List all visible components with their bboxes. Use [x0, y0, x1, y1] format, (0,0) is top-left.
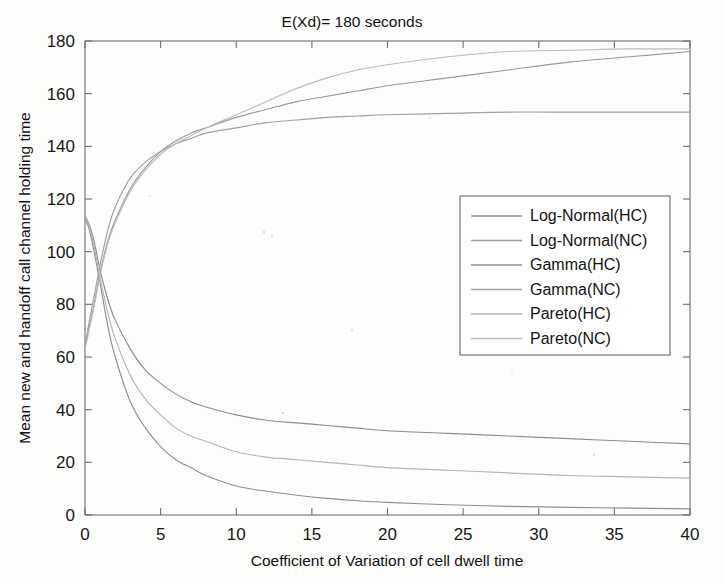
y-tick-label: 100: [47, 243, 75, 262]
x-tick-label: 15: [302, 525, 321, 544]
legend-label: Pareto(HC): [530, 305, 611, 322]
legend-label: Log-Normal(NC): [530, 232, 647, 249]
y-tick-label: 40: [56, 401, 75, 420]
legend-label: Log-Normal(HC): [530, 207, 647, 224]
y-tick-label: 60: [56, 348, 75, 367]
x-tick-label: 25: [454, 525, 473, 544]
y-tick-label: 20: [56, 453, 75, 472]
legend-label: Gamma(NC): [530, 281, 621, 298]
y-axis-label: Mean new and handoff call channel holdin…: [16, 112, 33, 443]
x-tick-label: 0: [80, 525, 89, 544]
y-tick-label: 120: [47, 190, 75, 209]
y-tick-label: 160: [47, 85, 75, 104]
legend-label: Gamma(HC): [530, 256, 621, 273]
x-tick-label: 10: [227, 525, 246, 544]
chart-figure: E(Xd)= 180 seconds 020406080100120140160…: [0, 0, 725, 585]
y-tick-label: 140: [47, 137, 75, 156]
x-tick-label: 35: [605, 525, 624, 544]
x-tick-label: 5: [156, 525, 165, 544]
y-tick-label: 180: [47, 32, 75, 51]
legend-label: Pareto(NC): [530, 330, 611, 347]
line-chart: E(Xd)= 180 seconds 020406080100120140160…: [0, 0, 725, 585]
y-tick-label: 0: [66, 506, 75, 525]
chart-title: E(Xd)= 180 seconds: [282, 13, 423, 30]
y-tick-label: 80: [56, 295, 75, 314]
x-tick-label: 30: [529, 525, 548, 544]
x-tick-label: 20: [378, 525, 397, 544]
x-axis-label: Coefficient of Variation of cell dwell t…: [251, 552, 524, 569]
chart-legend: Log-Normal(HC)Log-Normal(NC)Gamma(HC)Gam…: [460, 196, 670, 355]
x-tick-label: 40: [681, 525, 700, 544]
